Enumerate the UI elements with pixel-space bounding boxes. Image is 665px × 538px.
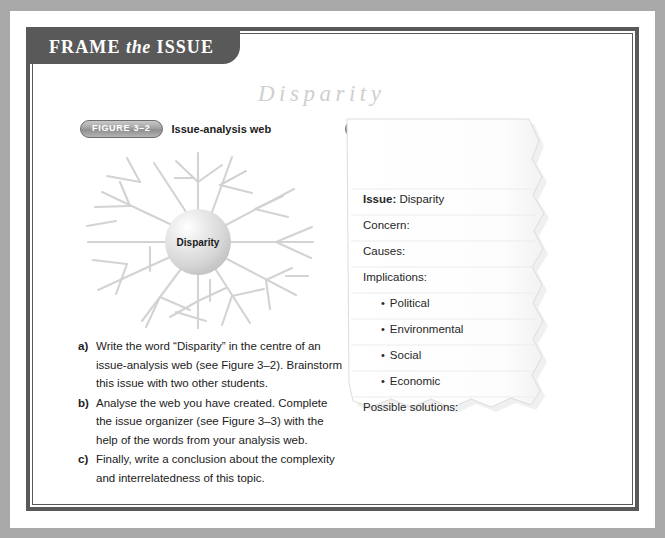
organizer-row-issue: Issue: Disparity (363, 193, 444, 205)
organizer-row-social: Social (381, 349, 421, 361)
instructions-list: a) Write the word “Disparity” in the cen… (78, 337, 346, 488)
topic-script-title: Disparity (258, 81, 385, 107)
issue-organizer: Issue: Disparity Concern: Causes: Implic… (345, 117, 570, 417)
list-item-text: Analyse the web you have created. Comple… (96, 394, 346, 450)
list-item-text: Finally, write a conclusion about the co… (96, 450, 346, 487)
banner-word-issue: ISSUE (157, 37, 215, 57)
organizer-row-political: Political (381, 297, 430, 309)
organizer-row-environmental: Environmental (381, 323, 463, 335)
list-item: b) Analyse the web you have created. Com… (78, 394, 346, 450)
organizer-row-possible-solutions: Possible solutions: (363, 401, 458, 413)
list-item-text: Write the word “Disparity” in the centre… (96, 337, 346, 393)
banner-word-frame: FRAME (49, 37, 121, 57)
section-banner: FRAME the ISSUE (30, 31, 240, 64)
organizer-row-value: Disparity (396, 193, 444, 205)
organizer-row-causes: Causes: (363, 245, 405, 257)
organizer-entries: Issue: Disparity Concern: Causes: Implic… (345, 117, 570, 417)
list-item: a) Write the word “Disparity” in the cen… (78, 337, 346, 393)
organizer-row-economic: Economic (381, 375, 440, 387)
banner-title: FRAME the ISSUE (49, 37, 214, 58)
list-item: c) Finally, write a conclusion about the… (78, 450, 346, 487)
list-item-marker: c) (78, 450, 96, 487)
organizer-row-implications: Implications: (363, 271, 427, 283)
activity-frame: FRAME the ISSUE Disparity FIGURE 3–2 Iss… (26, 27, 639, 511)
figure-caption-web: Issue-analysis web (172, 123, 272, 135)
textbook-page: FRAME the ISSUE Disparity FIGURE 3–2 Iss… (0, 0, 665, 538)
banner-word-the: the (126, 37, 151, 57)
list-item-marker: b) (78, 394, 96, 450)
web-center-node: Disparity (165, 209, 231, 275)
frame-content: FRAME the ISSUE Disparity FIGURE 3–2 Iss… (30, 31, 635, 507)
organizer-row-concern: Concern: (363, 219, 410, 231)
organizer-row-label: Issue: (363, 193, 396, 205)
list-item-marker: a) (78, 337, 96, 393)
figure-label-web: FIGURE 3–2 Issue-analysis web (80, 120, 271, 138)
issue-analysis-web-diagram: Disparity (80, 149, 335, 329)
web-center-node-label: Disparity (177, 237, 220, 248)
figure-number-badge-web: FIGURE 3–2 (80, 120, 163, 138)
